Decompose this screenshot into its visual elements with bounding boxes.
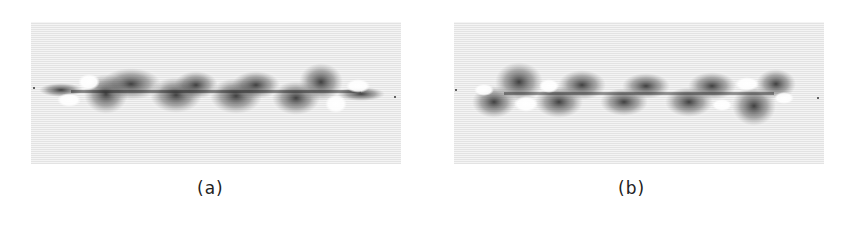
wave-pattern-a [31,22,401,164]
figure-panel-a [31,22,401,164]
wave-pattern-b [454,22,824,164]
figure-panel-b [454,22,824,164]
panel-caption-a: (a) [197,178,224,198]
panel-caption-b: (b) [618,178,645,198]
